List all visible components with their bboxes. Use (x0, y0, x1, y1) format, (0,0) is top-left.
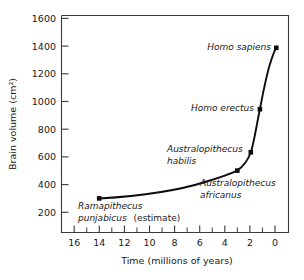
annotation-ramapithecus-estimate: (estimate) (134, 213, 181, 223)
x-axis-title: Time (millions of years) (120, 255, 233, 266)
data-marker-habilis (249, 150, 254, 155)
y-tick-label: 1200 (32, 68, 56, 79)
data-marker-africanus (235, 168, 240, 173)
x-tick-label: 10 (143, 237, 155, 248)
y-axis-title: Brain volume (cm²) (7, 78, 18, 170)
data-marker-erectus (258, 107, 263, 112)
annotation-africanus-line1: Australopithecus (199, 178, 276, 188)
y-axis-ticks (62, 18, 69, 212)
x-tick-label: 12 (118, 237, 130, 248)
y-axis-tick-labels: 1600 1400 1200 1000 800 600 400 200 (32, 13, 56, 218)
brain-volume-curve (99, 48, 276, 199)
annotation-ramapithecus-line1: Ramapithecus (78, 201, 143, 211)
y-tick-label: 1600 (32, 13, 56, 24)
y-tick-label: 800 (38, 124, 56, 135)
x-axis-major-ticks (74, 226, 275, 233)
annotation-habilis: Australopithecus habilis (166, 144, 243, 166)
y-tick-label: 1000 (32, 96, 56, 107)
x-axis-tick-labels: 16 14 12 10 8 6 4 2 0 (68, 237, 278, 248)
annotation-africanus-line2: africanus (200, 190, 242, 200)
annotation-ramapithecus: Ramapithecus punjabicus (estimate) (77, 201, 180, 223)
x-tick-label: 2 (247, 237, 253, 248)
x-tick-label: 6 (197, 237, 203, 248)
y-tick-label: 200 (38, 207, 56, 218)
x-tick-label: 8 (172, 237, 178, 248)
annotation-homo-erectus: Homo erectus (191, 103, 254, 113)
y-tick-label: 400 (38, 179, 56, 190)
x-tick-label: 0 (272, 237, 278, 248)
data-marker-sapiens (274, 46, 279, 51)
x-tick-label: 14 (93, 237, 105, 248)
annotation-habilis-line2: habilis (167, 156, 196, 166)
x-tick-label: 16 (68, 237, 80, 248)
annotation-ramapithecus-genus: punjabicus (77, 213, 127, 223)
y-tick-label: 1400 (32, 41, 56, 52)
chart-canvas: 1600 1400 1200 1000 800 600 400 200 (0, 0, 304, 280)
annotation-africanus: Australopithecus africanus (199, 178, 276, 200)
annotation-ramapithecus-line2: punjabicus (estimate) (77, 213, 180, 223)
data-marker-ramapithecus (97, 196, 102, 201)
x-tick-label: 4 (222, 237, 228, 248)
brain-volume-chart-figure: 1600 1400 1200 1000 800 600 400 200 (0, 0, 304, 280)
annotation-habilis-line1: Australopithecus (166, 144, 243, 154)
y-tick-label: 600 (38, 151, 56, 162)
annotation-homo-sapiens: Homo sapiens (207, 42, 271, 52)
